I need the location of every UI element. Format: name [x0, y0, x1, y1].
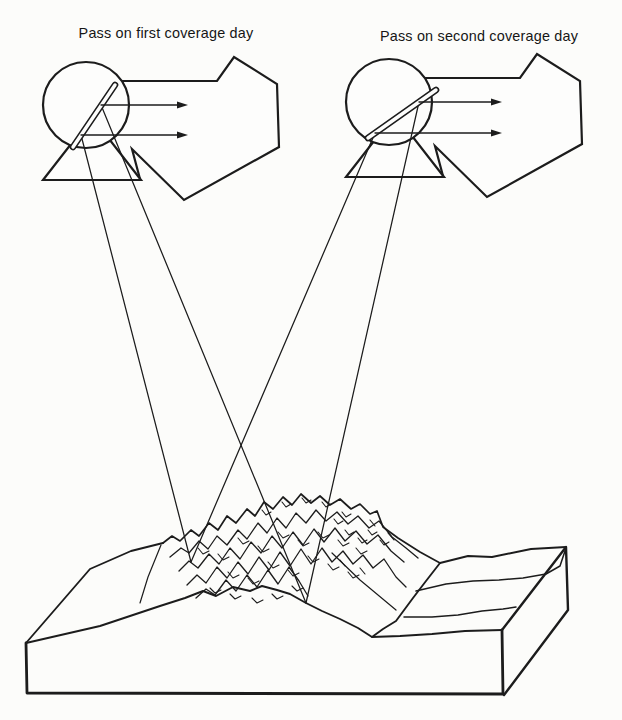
figure-canvas: Pass on first coverage day Pass on secon…	[0, 0, 622, 720]
terrain-right-face	[502, 547, 568, 695]
terrain-front-silhouette	[26, 586, 502, 643]
mountain-left-crease	[140, 545, 161, 603]
plain-terrace-line-2	[404, 607, 516, 617]
label-first-coverage-day: Pass on first coverage day	[79, 25, 254, 41]
terrain-block	[26, 494, 568, 695]
mountain-right-boundary	[372, 563, 440, 637]
satellite-scanner-icon-first-pass	[43, 57, 279, 200]
mountain-ridges	[163, 494, 440, 603]
ray-first-pass-to-point1	[81, 135, 191, 562]
label-second-coverage-day: Pass on second coverage day	[380, 28, 579, 44]
plain-back-edge	[440, 547, 566, 563]
stereo-coverage-diagram: Pass on first coverage day Pass on secon…	[0, 0, 622, 720]
terrain-front-face-edge	[26, 630, 503, 694]
